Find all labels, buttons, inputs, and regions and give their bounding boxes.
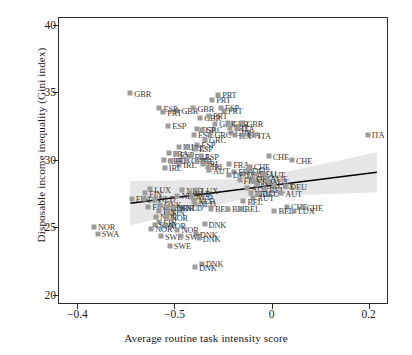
data-point-label: GBR: [197, 104, 214, 113]
scatter-plot-figure: Disposable income inequality (Gini index…: [0, 0, 412, 355]
data-point-marker[interactable]: [175, 193, 180, 198]
data-point-marker[interactable]: [365, 132, 370, 137]
data-point-marker[interactable]: [279, 191, 284, 196]
data-point-marker[interactable]: [129, 196, 134, 201]
y-axis-tick-label: 20: [0, 289, 56, 301]
data-point-marker[interactable]: [166, 123, 171, 128]
data-point-marker[interactable]: [196, 236, 201, 241]
data-point-marker[interactable]: [237, 178, 242, 183]
data-point-marker[interactable]: [208, 206, 213, 211]
data-point-marker[interactable]: [161, 158, 166, 163]
data-point-marker[interactable]: [199, 127, 204, 132]
data-point-marker[interactable]: [192, 265, 197, 270]
data-point-label: CHE: [296, 156, 312, 165]
data-point-marker[interactable]: [169, 158, 174, 163]
data-point-marker[interactable]: [157, 202, 162, 207]
data-point-marker[interactable]: [241, 199, 246, 204]
x-axis-tick-mark: [272, 304, 273, 309]
data-point-marker[interactable]: [167, 243, 172, 248]
x-axis-tick-mark: [174, 304, 175, 309]
data-point-marker[interactable]: [146, 204, 151, 209]
data-point-label: ITA: [258, 131, 271, 140]
data-point-marker[interactable]: [161, 110, 166, 115]
data-point-marker[interactable]: [225, 206, 230, 211]
data-point-marker[interactable]: [179, 234, 184, 239]
data-point-marker[interactable]: [95, 231, 100, 236]
data-point-label: PRT: [167, 108, 181, 117]
data-point-label: LUX: [298, 207, 315, 216]
x-axis-label: Average routine task intensity score: [0, 332, 412, 344]
data-point-marker[interactable]: [232, 133, 237, 138]
data-point-label: SWA: [102, 230, 119, 239]
data-point-label: GBR: [134, 89, 151, 98]
data-point-marker[interactable]: [210, 97, 215, 102]
x-axis-tick-label: 0: [242, 308, 302, 320]
x-axis-tick-label: −0.5: [144, 308, 204, 320]
data-point-marker[interactable]: [128, 91, 133, 96]
data-point-marker[interactable]: [194, 158, 199, 163]
data-point-label: ITA: [372, 131, 385, 140]
y-axis-tick-mark: [53, 25, 58, 26]
data-point-marker[interactable]: [226, 172, 231, 177]
y-axis-tick-label: 40: [0, 19, 56, 31]
data-point-marker[interactable]: [238, 206, 243, 211]
data-point-marker[interactable]: [291, 208, 296, 213]
data-point-label: AUT: [285, 189, 302, 198]
x-axis-tick-label: 0.2: [339, 308, 399, 320]
data-point-marker[interactable]: [185, 158, 190, 163]
data-point-marker[interactable]: [91, 224, 96, 229]
data-point-marker[interactable]: [191, 132, 196, 137]
y-axis-tick-mark: [53, 160, 58, 161]
data-point-label: PRT: [222, 91, 236, 100]
data-point-marker[interactable]: [162, 165, 167, 170]
data-point-marker[interactable]: [227, 162, 232, 167]
data-point-label: DNK: [199, 263, 217, 272]
data-point-label: ESP: [172, 122, 186, 131]
x-axis-tick-mark: [369, 304, 370, 309]
data-point-marker[interactable]: [141, 197, 146, 202]
data-point-marker[interactable]: [149, 226, 154, 231]
data-point-marker[interactable]: [202, 222, 207, 227]
y-axis-tick-mark: [53, 92, 58, 93]
data-point-marker[interactable]: [158, 234, 163, 239]
data-point-label: BEL: [245, 205, 260, 214]
y-axis-tick-label: 35: [0, 86, 56, 98]
plot-area: GBRGBRGBRGBRESPPRTPRTPRTPRTGBRGBRGBRPRTI…: [58, 17, 388, 304]
x-axis-tick-label: −0.4: [47, 308, 107, 320]
data-point-marker[interactable]: [175, 227, 180, 232]
data-point-label: DNK: [209, 220, 227, 229]
y-axis-tick-mark: [53, 227, 58, 228]
data-point-label: CHE: [273, 152, 289, 161]
y-axis-tick-label: 25: [0, 221, 56, 233]
data-point-label: IRL: [169, 164, 182, 173]
y-axis-tick-mark: [53, 295, 58, 296]
data-point-marker[interactable]: [206, 168, 211, 173]
data-point-marker[interactable]: [289, 158, 294, 163]
y-axis-label: Disposable income inequality (Gini index…: [35, 0, 47, 290]
data-point-marker[interactable]: [252, 133, 257, 138]
data-point-label: DNK: [203, 234, 221, 243]
data-point-marker[interactable]: [154, 214, 159, 219]
data-point-marker[interactable]: [241, 132, 246, 137]
data-point-marker[interactable]: [191, 106, 196, 111]
data-point-marker[interactable]: [198, 115, 203, 120]
data-point-label: PRT: [228, 107, 242, 116]
y-axis-tick-label: 30: [0, 154, 56, 166]
data-point-marker[interactable]: [216, 92, 221, 97]
data-point-marker[interactable]: [272, 208, 277, 213]
data-point-marker[interactable]: [152, 196, 157, 201]
data-point-label: SWE: [174, 242, 191, 251]
data-point-marker[interactable]: [206, 113, 211, 118]
x-axis-tick-mark: [77, 304, 78, 309]
data-point-marker[interactable]: [266, 154, 271, 159]
